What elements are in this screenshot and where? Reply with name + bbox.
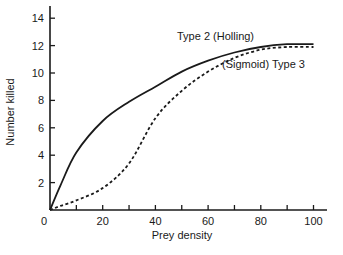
y-ticks: 2468101214 bbox=[32, 12, 55, 188]
y-axis-title: Number killed bbox=[4, 78, 16, 145]
y-tick-label: 8 bbox=[38, 94, 44, 106]
x-tick-label: 100 bbox=[304, 215, 322, 227]
type2-label: Type 2 (Holling) bbox=[177, 30, 254, 42]
y-tick-label: 12 bbox=[32, 40, 44, 52]
y-tick-label: 4 bbox=[38, 149, 44, 161]
x-axis-title: Prey density bbox=[152, 229, 213, 241]
y-tick-label: 2 bbox=[38, 177, 44, 189]
x-tick-label: 40 bbox=[149, 215, 161, 227]
x-ticks: 020406080100 bbox=[41, 205, 323, 227]
y-tick-label: 6 bbox=[38, 122, 44, 134]
x-tick-label: 60 bbox=[202, 215, 214, 227]
functional-response-chart: 020406080100 2468101214 Type 2 (Holling)… bbox=[0, 0, 343, 255]
y-tick-label: 14 bbox=[32, 12, 44, 24]
type3-label: (Sigmoid) Type 3 bbox=[222, 58, 305, 70]
y-tick-label: 10 bbox=[32, 67, 44, 79]
x-tick-label: 0 bbox=[41, 215, 47, 227]
x-tick-label: 80 bbox=[255, 215, 267, 227]
x-tick-label: 20 bbox=[97, 215, 109, 227]
